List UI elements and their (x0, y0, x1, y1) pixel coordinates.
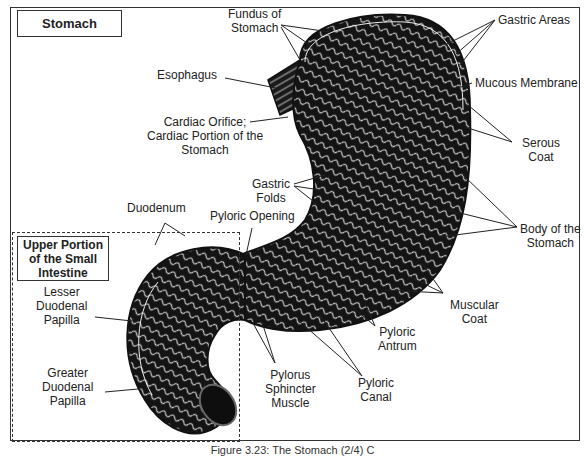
stomach-shape (240, 15, 470, 332)
label-gastric-areas: Gastric Areas (498, 13, 570, 27)
label-mucous-membrane: Mucous Membrane (475, 76, 578, 90)
label-pylorus-sphincter-muscle: Pylorus Sphincter Muscle (265, 368, 316, 410)
label-pyloric-antrum: Pyloric Antrum (378, 325, 417, 353)
section-title: Upper Portion of the Small Intestine (17, 236, 109, 281)
label-muscular-coat: Muscular Coat (450, 298, 499, 326)
label-pyloric-canal: Pyloric Canal (358, 376, 394, 404)
label-pyloric-opening: Pyloric Opening (210, 209, 295, 223)
figure-title: Stomach (17, 10, 122, 37)
label-duodenum: Duodenum (127, 201, 186, 215)
label-cardiac-orifice: Cardiac Orifice; Cardiac Portion of the … (147, 115, 263, 157)
label-lesser-duodenal-papilla: Lesser Duodenal Papilla (36, 285, 87, 327)
figure-caption: Figure 3.23: The Stomach (2/4) C (0, 444, 585, 456)
label-esophagus: Esophagus (157, 68, 217, 82)
label-gastric-folds: Gastric Folds (252, 177, 290, 205)
label-body-of-stomach: Body of the Stomach (520, 222, 581, 250)
label-greater-duodenal-papilla: Greater Duodenal Papilla (42, 366, 93, 408)
label-serous-coat: Serous Coat (522, 136, 560, 164)
label-fundus: Fundus of Stomach (228, 7, 281, 35)
